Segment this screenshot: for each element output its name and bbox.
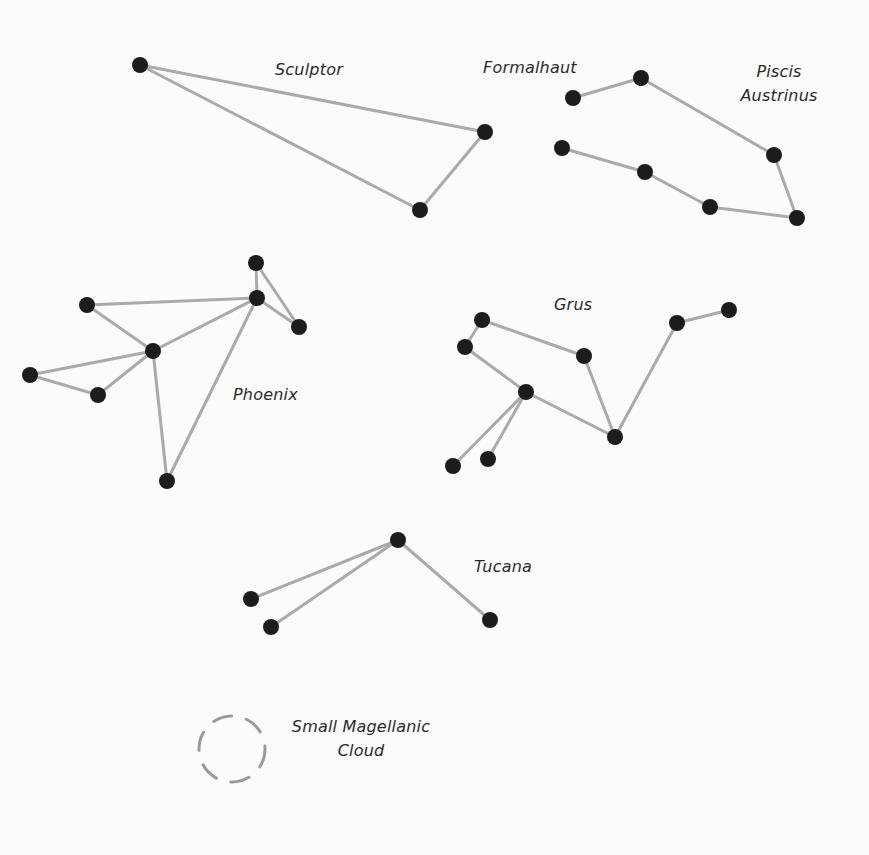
grus-star (576, 348, 592, 364)
label-piscis-line-2: Austrinus (735, 84, 823, 108)
grus-line (677, 310, 729, 323)
phoenix-star (22, 367, 38, 383)
grus-star (480, 451, 496, 467)
tucana-star (482, 612, 498, 628)
sculptor-star (477, 124, 493, 140)
piscis-austrinus-star (633, 70, 649, 86)
sculptor-star (132, 57, 148, 73)
phoenix-line (153, 351, 167, 481)
grus-star (607, 429, 623, 445)
phoenix-star (248, 255, 264, 271)
piscis-austrinus-star (702, 199, 718, 215)
phoenix-line (87, 305, 153, 351)
piscis-austrinus-line (573, 78, 641, 98)
phoenix-star (79, 297, 95, 313)
phoenix-star (145, 343, 161, 359)
grus-star (445, 458, 461, 474)
constellation-lines (30, 65, 797, 627)
grus-star (721, 302, 737, 318)
piscis-austrinus-line (645, 172, 710, 207)
label-formalhaut: Formalhaut (483, 56, 577, 80)
phoenix-star (291, 319, 307, 335)
piscis-austrinus-line (774, 155, 797, 218)
tucana-star (390, 532, 406, 548)
label-small-magellanic-cloud: Small Magellanic Cloud (278, 715, 444, 763)
phoenix-star (159, 473, 175, 489)
grus-star (518, 384, 534, 400)
piscis-austrinus-star (789, 210, 805, 226)
grus-star (669, 315, 685, 331)
phoenix-star (90, 387, 106, 403)
grus-line (465, 347, 526, 392)
sculptor-star (412, 202, 428, 218)
grus-line (615, 323, 677, 437)
tucana-star (263, 619, 279, 635)
piscis-austrinus-star (565, 90, 581, 106)
constellation-stars (22, 57, 805, 635)
sculptor-line (140, 65, 420, 210)
piscis-austrinus-star (637, 164, 653, 180)
small-magellanic-cloud-outline (199, 716, 265, 782)
phoenix-line (30, 375, 98, 395)
grus-line (482, 320, 584, 356)
label-piscis-line-1: Piscis (735, 60, 823, 84)
phoenix-line (87, 298, 257, 305)
label-piscis-austrinus: Piscis Austrinus (735, 60, 823, 108)
label-smc-line-1: Small Magellanic (278, 715, 444, 739)
label-smc-line-2: Cloud (278, 739, 444, 763)
phoenix-line (153, 298, 257, 351)
label-grus: Grus (554, 293, 592, 317)
piscis-austrinus-line (710, 207, 797, 218)
label-phoenix: Phoenix (233, 383, 298, 407)
piscis-austrinus-star (554, 140, 570, 156)
phoenix-line (30, 351, 153, 375)
tucana-star (243, 591, 259, 607)
tucana-line (398, 540, 490, 620)
label-sculptor: Sculptor (275, 58, 343, 82)
label-tucana: Tucana (474, 555, 532, 579)
grus-star (457, 339, 473, 355)
grus-star (474, 312, 490, 328)
sculptor-line (420, 132, 485, 210)
phoenix-star (249, 290, 265, 306)
piscis-austrinus-line (562, 148, 645, 172)
piscis-austrinus-star (766, 147, 782, 163)
